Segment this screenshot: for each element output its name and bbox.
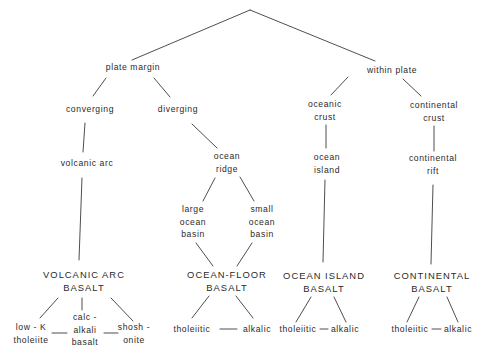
edge-converging-volcanic-arc: [83, 123, 85, 152]
edge-ocean-island-oib: [323, 180, 325, 262]
basalt-ocean-floor: OCEAN-FLOOR BASALT: [187, 268, 267, 294]
edge-ridge-large-basin: [203, 178, 215, 201]
edge-root-within-plate: [250, 10, 375, 61]
basalt-volcanic-arc: VOLCANIC ARC BASALT: [43, 268, 125, 294]
edge-cb-alkalic: [447, 297, 458, 322]
edge-root-plate-margin: [132, 10, 250, 60]
node-continental-crust: continental crust: [410, 99, 458, 124]
node-volcanic-arc: volcanic arc: [61, 157, 114, 170]
node-continental-rift: continental rift: [409, 152, 457, 177]
edge-plate-margin-diverging: [154, 78, 170, 97]
edge-large-basin-ofb: [196, 243, 213, 266]
edge-oib-alkalic: [334, 297, 346, 322]
basalt-ocean-island: OCEAN ISLAND BASALT: [283, 269, 365, 295]
subtype-oib-alkalic: alkalic: [331, 323, 359, 336]
subtype-calc-alkali-basalt: calc - alkali basalt: [72, 311, 99, 349]
subtype-low-k-tholeiite: low - K tholeiite: [13, 321, 48, 346]
node-ocean-island: ocean island: [314, 151, 340, 176]
subtype-shoshonite: shosh - onite: [118, 321, 150, 346]
edge-vab-low-k: [40, 298, 58, 318]
node-plate-margin: plate margin: [106, 61, 161, 74]
node-converging: converging: [66, 103, 114, 116]
node-large-ocean-basin: large ocean basin: [180, 203, 206, 241]
edge-small-basin-ofb: [237, 243, 252, 266]
edge-ofb-alkalic: [236, 296, 253, 318]
node-small-ocean-basin: small ocean basin: [249, 203, 275, 241]
node-oceanic-crust: oceanic crust: [308, 98, 342, 123]
subtype-cb-alkalic: alkalic: [444, 323, 472, 336]
node-within-plate: within plate: [367, 64, 417, 77]
edge-rift-continental-basalt: [431, 185, 433, 264]
tree-connector-lines: [0, 0, 479, 352]
edge-within-plate-continental-crust: [403, 79, 421, 96]
subtype-oib-tholeiitic: tholeiitic: [279, 323, 316, 336]
edge-volcanic-arc-basalt: [79, 178, 82, 260]
edge-cb-tholeiitic: [407, 297, 419, 322]
node-diverging: diverging: [158, 103, 198, 116]
edge-within-plate-oceanic-crust: [331, 77, 348, 95]
edge-oib-tholeiitic: [296, 297, 311, 322]
basalt-tectonic-setting-tree: plate margin within plate converging div…: [0, 0, 479, 352]
basalt-continental: CONTINENTAL BASALT: [394, 269, 470, 295]
subtype-ofb-alkalic: alkalic: [243, 323, 271, 336]
edge-vab-shoshonite: [111, 298, 133, 321]
edge-ridge-small-basin: [240, 177, 254, 201]
edge-ofb-tholeiitic: [192, 296, 209, 318]
subtype-cb-tholeiitic: tholeiitic: [391, 323, 428, 336]
edge-diverging-ocean-ridge: [192, 124, 217, 148]
node-ocean-ridge: ocean ridge: [214, 150, 240, 175]
subtype-ofb-tholeiitic: tholeiitic: [173, 323, 210, 336]
edge-plate-margin-converging: [93, 78, 106, 96]
